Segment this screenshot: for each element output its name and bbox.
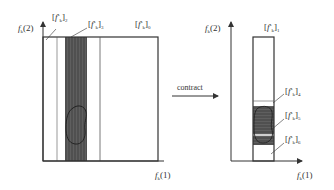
left-x-axis-label: fk(1) (155, 171, 171, 181)
label-sub: k (292, 116, 295, 121)
interval-label-2: [fsk]2 (52, 12, 67, 23)
interval-label-3: [fsk]3 (88, 19, 103, 30)
axis-arg: (2) (210, 23, 221, 33)
right-y-axis-label: fk(2) (205, 24, 221, 34)
label-sup: s (141, 19, 143, 24)
label-sup: s (270, 22, 272, 27)
right-x-axis-label: fk(1) (297, 171, 313, 181)
interval-label-6: [fsk]6 (285, 134, 300, 145)
label-sub: k (59, 18, 62, 23)
axis-arg: (1) (302, 170, 313, 180)
label-sub: k (271, 28, 274, 33)
label-index: 6 (298, 140, 301, 145)
label-sub: k (95, 25, 98, 30)
left-panel (43, 22, 164, 161)
label-index: 0 (148, 25, 151, 30)
right-light-stripe (253, 134, 274, 136)
diagram-canvas (0, 0, 334, 190)
interval-label-1: [fsk]1 (264, 22, 279, 33)
label-sub: k (142, 25, 145, 30)
label-index: 5 (298, 116, 301, 121)
label-sup: s (291, 134, 293, 139)
label-index: 4 (298, 92, 301, 97)
label-sub: k (292, 140, 295, 145)
leader-line-3 (71, 28, 87, 37)
left-region-box (43, 37, 158, 161)
contract-label: contract (177, 83, 203, 92)
axis-arg: (1) (160, 170, 171, 180)
interval-label-5: [fsk]5 (285, 110, 300, 121)
label-sub: k (292, 92, 295, 97)
label-sup: s (94, 19, 96, 24)
label-sup: s (291, 86, 293, 91)
interval-label-4: [fsk]4 (285, 86, 300, 97)
label-index: 1 (277, 28, 280, 33)
interval-label-0: [fsk]0 (135, 19, 150, 30)
label-sup: s (291, 110, 293, 115)
label-index: 2 (65, 18, 68, 23)
label-index: 3 (101, 25, 104, 30)
label-sup: s (58, 12, 60, 17)
left-y-axis-label: fk(2) (18, 24, 34, 34)
axis-arg: (2) (23, 23, 34, 33)
leader-line-2 (46, 29, 56, 40)
leader-line-4 (273, 94, 284, 103)
left-dark-band (65, 37, 87, 161)
